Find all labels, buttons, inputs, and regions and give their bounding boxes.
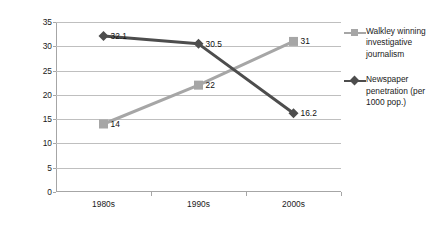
y-tick-label: 10: [43, 138, 52, 148]
chart-legend: Walkley winning investigative journalism…: [344, 26, 434, 122]
data-point-label: 22: [206, 80, 215, 90]
legend-item-newspaper[interactable]: Newspaper penetration (per 1000 pop.): [344, 74, 434, 108]
y-tick-label: 5: [47, 163, 52, 173]
chart-container: Newspaper penetration (x10) 051015202530…: [0, 0, 435, 226]
x-tick-label: 1980s: [92, 199, 115, 209]
legend-item-label: Walkley winning investigative journalism: [366, 26, 432, 60]
y-tick-label: 0: [47, 187, 52, 197]
x-tick-mark: [341, 192, 342, 196]
legend-item-label: Newspaper penetration (per 1000 pop.): [366, 74, 432, 108]
data-point-label: 32.1: [111, 31, 127, 41]
data-point-label: 31: [301, 36, 310, 46]
data-point-marker: [99, 120, 108, 129]
diamond-marker-icon: [344, 75, 366, 86]
x-tick-label: 1990s: [187, 199, 210, 209]
data-point-label: 14: [111, 119, 120, 129]
legend-item-walkley[interactable]: Walkley winning investigative journalism: [344, 26, 434, 60]
x-tick-label: 2000s: [282, 199, 305, 209]
data-point-marker: [289, 37, 298, 46]
y-tick-label: 35: [43, 17, 52, 27]
y-tick-label: 25: [43, 66, 52, 76]
y-tick-label: 15: [43, 114, 52, 124]
y-tick-label: 30: [43, 41, 52, 51]
square-marker-icon: [344, 27, 366, 38]
plot-area: 05101520253035 1980s1990s2000s 14223132.…: [56, 22, 341, 192]
data-point-label: 16.2: [301, 108, 317, 118]
series-layer: [56, 22, 341, 192]
data-point-marker: [194, 81, 203, 90]
data-point-label: 30.5: [206, 39, 222, 49]
y-tick-label: 20: [43, 90, 52, 100]
x-tick-mark: [151, 192, 152, 196]
y-tick-mark: [53, 192, 56, 193]
data-point-marker: [99, 31, 109, 41]
x-tick-mark: [246, 192, 247, 196]
